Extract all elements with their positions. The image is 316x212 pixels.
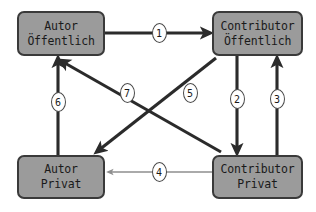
node-autor-oeffentlich-line2: Öffentlich	[27, 34, 94, 49]
edge-label-2-text: 2	[230, 89, 245, 109]
edge-label-4[interactable]: 4	[152, 162, 167, 182]
edge-label-4-text: 4	[152, 162, 167, 182]
node-contributor-oeffentlich[interactable]: Contributor Öffentlich	[212, 11, 303, 56]
node-contributor-privat[interactable]: Contributor Privat	[212, 155, 303, 199]
node-autor-privat-line2: Privat	[41, 177, 81, 192]
node-autor-privat-line1: Autor	[44, 162, 78, 177]
diagram-canvas: Autor Öffentlich Contributor Öffentlich …	[0, 0, 316, 212]
edge-label-3[interactable]: 3	[270, 89, 285, 109]
edge-label-7-text: 7	[120, 83, 135, 103]
node-contributor-privat-line2: Privat	[237, 177, 277, 192]
edge-label-1[interactable]: 1	[152, 23, 167, 43]
node-autor-privat[interactable]: Autor Privat	[17, 155, 105, 199]
edge-label-7[interactable]: 7	[120, 83, 135, 103]
edge-label-5[interactable]: 5	[183, 83, 198, 103]
node-contributor-oeffentlich-line2: Öffentlich	[224, 34, 291, 49]
edge-label-2[interactable]: 2	[230, 89, 245, 109]
node-contributor-oeffentlich-line1: Contributor	[221, 19, 295, 34]
node-autor-oeffentlich[interactable]: Autor Öffentlich	[17, 11, 105, 56]
edge-7-line	[99, 58, 216, 150]
edge-label-1-text: 1	[152, 23, 167, 43]
edge-label-6[interactable]: 6	[51, 92, 66, 112]
edge-5-line	[63, 62, 221, 152]
edge-label-6-text: 6	[51, 92, 66, 112]
edge-label-5-text: 5	[183, 83, 198, 103]
node-autor-oeffentlich-line1: Autor	[44, 19, 78, 34]
edge-label-3-text: 3	[270, 89, 285, 109]
node-contributor-privat-line1: Contributor	[221, 162, 295, 177]
